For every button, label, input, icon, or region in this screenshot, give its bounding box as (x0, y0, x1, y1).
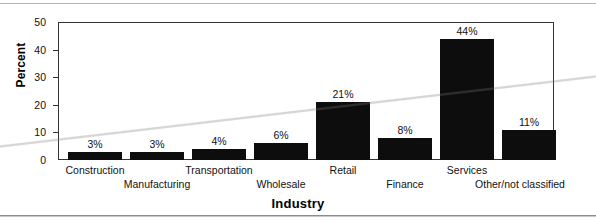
x-tick-label-services: Services (447, 164, 487, 176)
x-tick-label-retail: Retail (330, 164, 357, 176)
bar-value-other-not-classified: 11% (519, 117, 539, 128)
bar-transportation (192, 149, 246, 160)
x-tick-label-transportation: Transportation (185, 164, 252, 176)
bar-value-manufacturing: 3% (149, 139, 164, 150)
x-tick-label-construction: Construction (66, 164, 125, 176)
x-tick-label-manufacturing: Manufacturing (124, 178, 191, 190)
bar-group-manufacturing: 3% (130, 22, 184, 160)
bar-value-services: 44% (456, 26, 477, 37)
bar-group-retail: 21% (316, 22, 370, 160)
bar-series: 3% 3% 4% 6% 21% 8% 44% 11% (58, 22, 554, 160)
bar-manufacturing (130, 152, 184, 160)
x-tick-label-finance: Finance (386, 178, 423, 190)
bar-other-not-classified (502, 130, 556, 160)
y-axis: Percent 50 40 30 20 10 0 (0, 0, 58, 182)
bar-group-transportation: 4% (192, 22, 246, 160)
bar-value-finance: 8% (397, 125, 412, 136)
y-tick-label-30: 30 (34, 72, 46, 82)
bar-group-services: 44% (440, 22, 494, 160)
bar-group-wholesale: 6% (254, 22, 308, 160)
y-tick-label-10: 10 (34, 127, 46, 137)
y-axis-title: Percent (14, 30, 28, 100)
y-tick-label-40: 40 (34, 45, 46, 55)
y-tick-label-50: 50 (34, 17, 46, 27)
bar-group-finance: 8% (378, 22, 432, 160)
bar-group-other-not-classified: 11% (502, 22, 556, 160)
bar-group-construction: 3% (68, 22, 122, 160)
bar-construction (68, 152, 122, 160)
x-tick-label-other-not-classified: Other/not classified (475, 178, 565, 190)
bar-finance (378, 138, 432, 160)
bar-services (440, 39, 494, 160)
x-axis-tick-labels: Construction Manufacturing Transportatio… (0, 162, 596, 196)
bar-value-construction: 3% (87, 139, 102, 150)
bar-value-transportation: 4% (211, 136, 226, 147)
y-tick-label-20: 20 (34, 100, 46, 110)
bar-retail (316, 102, 370, 160)
bar-wholesale (254, 143, 308, 160)
x-axis-title: Industry (0, 196, 596, 211)
x-tick-label-wholesale: Wholesale (256, 178, 305, 190)
page-rule-bottom-shadow (0, 216, 596, 217)
bar-value-retail: 21% (332, 89, 353, 100)
page-rule-top (0, 3, 596, 4)
bar-value-wholesale: 6% (273, 130, 288, 141)
